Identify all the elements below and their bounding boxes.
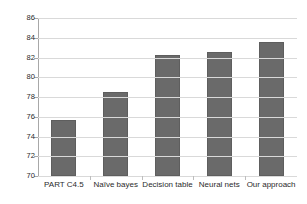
x-category-label: PART C4.5 [38,180,90,190]
y-tick-label: 80 [26,73,35,81]
x-category-label: Decision table [142,180,194,190]
grid-line [38,58,297,59]
grid-line [38,156,297,157]
y-tick-label: 76 [26,113,35,121]
plot-area [38,18,297,176]
grid-line [38,97,297,98]
grid-line [38,77,297,78]
bar [207,52,232,176]
bar [103,92,128,176]
y-tick-label: 78 [26,93,35,101]
y-tick-label: 74 [26,133,35,141]
grid-line [38,18,297,19]
y-tick-label: 70 [26,172,35,180]
y-tick-label: 86 [26,14,35,22]
y-tick-label: 82 [26,54,35,62]
y-tick-label: 84 [26,34,35,42]
grid-line [38,117,297,118]
y-tick-label: 72 [26,152,35,160]
x-category-label: Neural nets [193,180,245,190]
bar [155,55,180,176]
x-category-label: Naïve bayes [90,180,142,190]
bar [51,120,76,176]
grid-line [38,176,297,177]
x-category-label: Our approach [245,180,297,190]
bar-chart: 707274767880828486 PART C4.5Naïve bayesD… [0,0,307,204]
grid-line [38,137,297,138]
grid-line [38,38,297,39]
